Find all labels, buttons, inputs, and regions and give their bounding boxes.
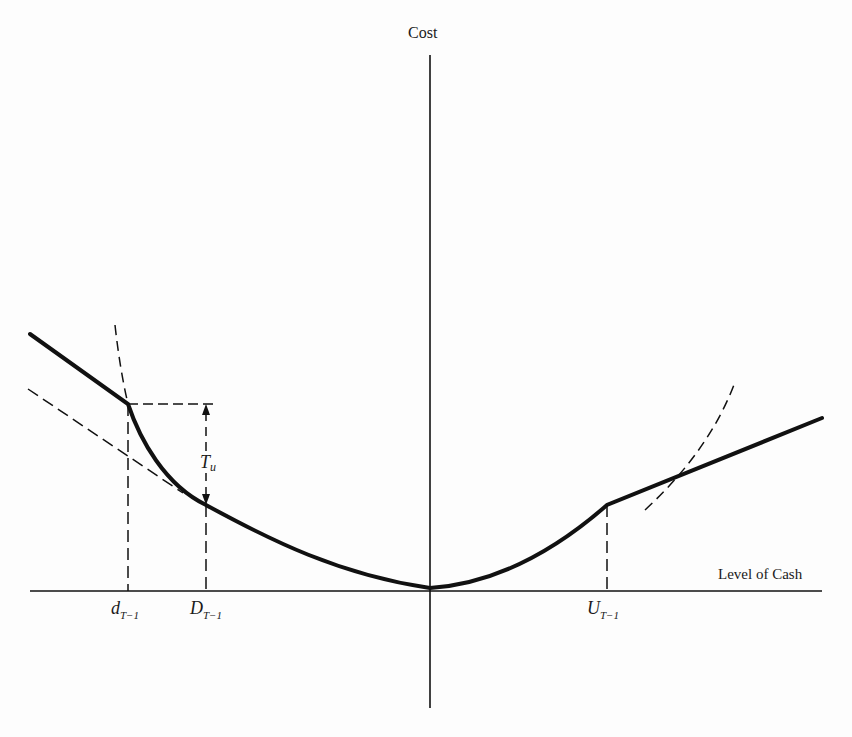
d-T-1-label: dT−1 <box>111 598 139 619</box>
Tu-sub: u <box>210 460 216 474</box>
U-main: U <box>587 598 600 618</box>
cash-cost-diagram: Cost Level of Cash dT−1 DT−1 UT−1 Tu <box>0 0 852 737</box>
cost-curve <box>30 334 822 588</box>
x-axis-label: Level of Cash <box>718 566 802 583</box>
Tu-main: T <box>200 452 210 472</box>
Tu-label: Tu <box>199 452 217 473</box>
D-T-1-label: DT−1 <box>190 598 222 619</box>
d-main: d <box>111 598 120 618</box>
right-dashed-curve <box>645 382 735 510</box>
D-main: D <box>190 598 203 618</box>
y-axis-label: Cost <box>408 24 437 42</box>
d-sub: T−1 <box>120 609 139 621</box>
diagram-svg <box>0 0 852 737</box>
U-T-1-label: UT−1 <box>587 598 619 619</box>
U-sub: T−1 <box>600 609 619 621</box>
D-sub: T−1 <box>203 609 222 621</box>
Tu-arrow-up-icon <box>202 404 210 415</box>
left-dashed-curve <box>115 325 128 404</box>
